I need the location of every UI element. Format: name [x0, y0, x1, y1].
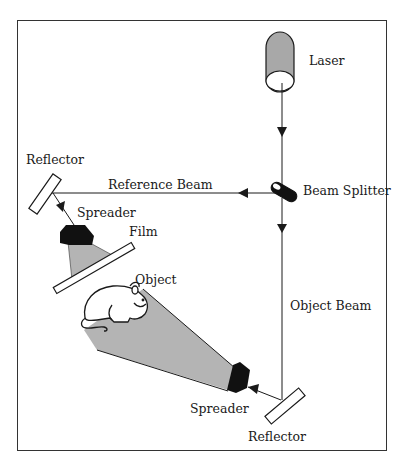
object-beam-label: Object Beam: [290, 300, 371, 313]
top-reflector-label: Reflector: [26, 154, 84, 167]
reflected-reference-line: [53, 193, 76, 228]
bottom-spreader-label: Spreader: [190, 403, 249, 416]
top-spreader-label: Spreader: [77, 207, 136, 220]
beam-splitter-label: Beam Splitter: [303, 185, 391, 198]
reference-beam-label: Reference Beam: [108, 179, 213, 192]
arrow-down-icon: [56, 201, 65, 212]
beam-splitter-icon: [269, 180, 299, 204]
arrow-left-icon: [248, 384, 259, 394]
laser-icon: [266, 32, 294, 92]
top-reflector-icon: [29, 174, 61, 214]
bottom-reflector-label: Reflector: [248, 431, 306, 444]
film-label: Film: [129, 226, 158, 239]
arrow-down-icon: [277, 224, 287, 233]
bottom-reflector-icon: [265, 388, 305, 424]
top-spreader-icon: [60, 225, 94, 245]
arrow-left-icon: [238, 188, 248, 198]
laser-label: Laser: [309, 55, 345, 68]
object-label: Object: [135, 274, 177, 287]
arrow-down-icon: [277, 127, 287, 137]
holography-diagram: [0, 0, 403, 466]
